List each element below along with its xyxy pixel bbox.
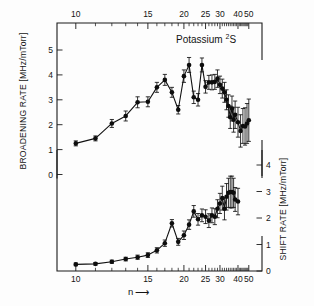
right-arrow-icon: ⟶	[135, 287, 149, 298]
upper-series-broadening-rate	[74, 57, 252, 147]
upper-series-broadening-rate-curve	[76, 65, 249, 143]
data-point	[233, 112, 238, 117]
data-point	[203, 85, 208, 90]
lower-series-shift-rate-point	[146, 253, 151, 258]
data-point	[215, 76, 220, 81]
lower-series-shift-rate-point	[170, 220, 175, 227]
data-point	[93, 262, 98, 267]
bottom-x-axis-tick-label: 30	[215, 274, 225, 284]
data-point	[236, 199, 241, 204]
data-point	[155, 248, 160, 253]
lower-series-shift-rate-point	[135, 255, 140, 260]
data-point	[176, 107, 181, 112]
data-point	[182, 233, 187, 238]
figure-container: 101520253040501015202530405001234501234 …	[0, 0, 314, 306]
data-point	[215, 206, 220, 211]
right-y-axis-ticks: 01234	[257, 160, 272, 276]
top-x-axis-tick-label: 30	[215, 9, 225, 19]
upper-series-broadening-rate-point	[123, 111, 128, 121]
upper-series-broadening-rate-point	[187, 57, 192, 72]
data-point	[170, 221, 175, 226]
left-y-axis-ticks: 012345	[48, 45, 62, 180]
data-point	[170, 90, 175, 95]
upper-series-broadening-rate-point	[196, 94, 201, 106]
data-point	[196, 98, 201, 103]
upper-axis-frame	[57, 23, 262, 179]
upper-series-broadening-rate-point	[135, 97, 140, 108]
lower-series-shift-rate-curve	[76, 192, 238, 264]
data-point	[146, 99, 151, 104]
data-point	[163, 241, 168, 246]
data-point	[123, 114, 128, 119]
data-point	[163, 78, 168, 83]
lower-series-shift-rate-point	[236, 188, 241, 215]
lower-series-shift-rate-point	[93, 262, 98, 267]
data-point	[146, 253, 151, 258]
left-y-tick-label: 2	[48, 120, 53, 130]
data-point	[220, 196, 225, 201]
top-x-axis-ticks: 10152025304050	[71, 9, 254, 29]
lower-series-shift-rate-point	[110, 259, 115, 264]
data-point	[218, 201, 223, 206]
bottom-x-axis-tick-label: 20	[179, 274, 189, 284]
data-point	[182, 74, 187, 79]
lower-series-shift-rate-point	[200, 209, 205, 222]
x-axis-label-text: n	[128, 286, 133, 297]
top-x-axis-tick-label: 15	[143, 9, 153, 19]
data-point	[93, 136, 98, 141]
lower-series-shift-rate-point	[123, 257, 128, 262]
upper-series-broadening-rate-point	[200, 58, 205, 72]
lower-series-shift-rate-point	[74, 262, 79, 267]
right-y-tick-label: 0	[266, 266, 271, 276]
lower-axis-frame	[57, 150, 262, 271]
lower-series-shift-rate	[74, 176, 241, 267]
data-point	[222, 90, 227, 95]
data-point	[203, 214, 208, 219]
bottom-x-axis-tick-label: 25	[201, 274, 211, 284]
bottom-x-axis-tick-label: 50	[244, 274, 254, 284]
data-point	[191, 209, 196, 214]
bottom-x-axis-ticks: 10152025304050	[71, 265, 254, 284]
top-x-axis-tick-label: 50	[244, 9, 254, 19]
upper-series-broadening-rate-point	[191, 91, 196, 103]
upper-series-broadening-rate-point	[238, 115, 243, 147]
upper-series-broadening-rate-point	[110, 119, 115, 127]
plot-title-element: Potassium	[176, 34, 223, 45]
bottom-x-axis-tick-label: 10	[71, 274, 81, 284]
left-y-tick-label: 0	[48, 170, 53, 180]
lower-series-shift-rate-point	[163, 240, 168, 246]
top-x-axis-tick-label: 10	[71, 9, 81, 19]
data-point	[196, 217, 201, 222]
right-y-tick-label: 3	[266, 187, 271, 197]
bottom-x-axis-tick-label: 40	[233, 274, 243, 284]
plot-title: Potassium 2S	[176, 33, 236, 45]
chart-canvas: 101520253040501015202530405001234501234	[0, 0, 314, 306]
data-point	[238, 129, 243, 134]
top-x-axis-tick-label: 20	[179, 9, 189, 19]
data-point	[187, 63, 192, 68]
data-point	[123, 257, 128, 262]
bottom-x-axis-tick-label: 15	[143, 274, 153, 284]
data-point	[213, 214, 218, 219]
data-point	[74, 262, 79, 267]
upper-series-broadening-rate-point	[74, 141, 79, 146]
data-point	[74, 141, 79, 146]
data-point	[135, 100, 140, 105]
left-y-tick-label: 5	[48, 45, 53, 55]
data-point	[200, 63, 205, 68]
right-y-tick-label: 2	[266, 213, 271, 223]
data-point	[191, 95, 196, 100]
data-point	[187, 222, 192, 227]
data-point	[110, 259, 115, 264]
data-point	[236, 120, 241, 125]
y-axis-label-left: BROADENING RATE [MHz/mTorr]	[18, 31, 28, 171]
right-y-tick-label: 4	[266, 160, 271, 170]
data-point	[135, 255, 140, 260]
x-axis-label: n⟶	[128, 286, 149, 298]
top-x-axis-tick-label: 40	[233, 9, 243, 19]
plot-title-term-letter: S	[229, 34, 236, 45]
data-point	[247, 118, 252, 123]
right-y-tick-label: 1	[266, 240, 271, 250]
left-y-tick-label: 3	[48, 95, 53, 105]
left-y-tick-label: 4	[48, 70, 53, 80]
